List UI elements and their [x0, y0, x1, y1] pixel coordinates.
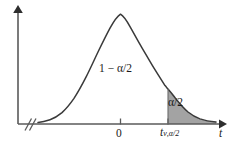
t-distribution-figure: 1 − α/2 α/2 0 tν,α/2 t	[0, 0, 245, 152]
x-axis-tick-label-critical-value: tν,α/2	[160, 127, 179, 139]
x-axis-name-label: t	[219, 128, 222, 140]
x-axis-tick-label-zero: 0	[116, 128, 122, 140]
plot-canvas	[0, 0, 245, 152]
critical-value-subscript: ν,α/2	[163, 129, 179, 138]
tail-area-label: α/2	[168, 97, 183, 109]
body-area-label: 1 − α/2	[99, 63, 132, 75]
y-axis-arrowhead	[13, 5, 23, 13]
